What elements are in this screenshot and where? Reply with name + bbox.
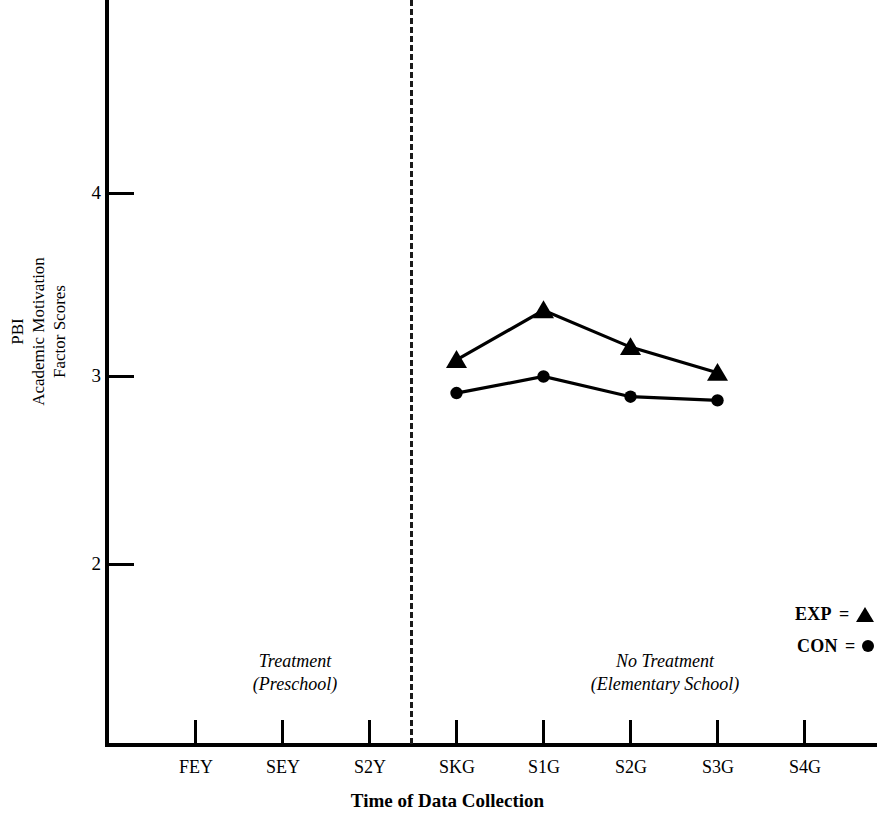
no-treatment-phase-line-1: No Treatment — [540, 650, 790, 673]
x-tick-mark-sey — [281, 720, 284, 744]
y-tick-label-3: 3 — [75, 366, 101, 385]
x-tick-label-s3g: S3G — [683, 757, 753, 777]
y-tick-mark-4 — [109, 192, 134, 195]
circle-marker-icon — [862, 640, 874, 652]
data-point-con-S2G — [624, 391, 636, 403]
legend-item-exp: EXP = — [795, 598, 874, 630]
legend-equals-exp: = — [839, 598, 849, 630]
treatment-phase-line-1: Treatment — [180, 650, 410, 673]
y-tick-label-2: 2 — [75, 554, 101, 573]
data-point-con-S3G — [711, 394, 723, 406]
treatment-phase-line-2: (Preschool) — [180, 673, 410, 696]
y-axis-title-line-1: PBI — [7, 212, 28, 452]
legend-item-con: CON = — [795, 630, 874, 662]
legend-label-exp: EXP — [795, 598, 832, 630]
x-axis-title: Time of Data Collection — [0, 790, 895, 812]
y-axis-title: PBI Academic Motivation Factor Scores — [7, 212, 70, 452]
chart-figure: 4 3 2 FEY SEY S2Y SKG S1G S2G S3G S4G PB… — [0, 0, 895, 817]
y-axis-title-line-3: Factor Scores — [49, 212, 70, 452]
x-tick-mark-skg — [455, 720, 458, 744]
x-tick-mark-s1g — [542, 720, 545, 744]
x-tick-mark-s3g — [716, 720, 719, 744]
data-point-exp-SKG — [446, 350, 467, 368]
legend-equals-con: = — [845, 630, 855, 662]
legend: EXP = CON = — [795, 598, 874, 662]
x-tick-mark-s2y — [368, 720, 371, 744]
series-exp-markers — [446, 300, 728, 380]
legend-label-con: CON — [797, 630, 838, 662]
no-treatment-phase-annotation: No Treatment (Elementary School) — [540, 650, 790, 696]
x-tick-label-sey: SEY — [248, 757, 318, 777]
x-tick-label-fey: FEY — [161, 757, 231, 777]
y-axis-title-line-2: Academic Motivation — [28, 212, 49, 452]
data-point-con-S1G — [537, 370, 549, 382]
x-tick-label-s4g: S4G — [770, 757, 840, 777]
x-tick-mark-s4g — [803, 720, 806, 744]
data-point-exp-S1G — [533, 300, 554, 318]
x-tick-label-skg: SKG — [422, 757, 492, 777]
triangle-marker-icon — [856, 607, 874, 622]
data-point-exp-S2G — [620, 337, 641, 355]
series-exp — [446, 300, 728, 380]
y-tick-mark-3 — [109, 375, 134, 378]
x-tick-mark-s2g — [629, 720, 632, 744]
treatment-phase-annotation: Treatment (Preschool) — [180, 650, 410, 696]
x-tick-label-s2g: S2G — [596, 757, 666, 777]
data-point-exp-S3G — [707, 363, 728, 381]
series-exp-line — [457, 310, 718, 373]
series-con-markers — [450, 370, 723, 406]
series-con-line — [457, 377, 718, 401]
x-tick-label-s1g: S1G — [509, 757, 579, 777]
x-tick-mark-fey — [194, 720, 197, 744]
series-con — [450, 370, 723, 406]
x-axis-line — [105, 743, 877, 747]
x-tick-label-s2y: S2Y — [335, 757, 405, 777]
phase-divider-dashed-line — [410, 0, 413, 744]
y-tick-mark-2 — [109, 563, 134, 566]
no-treatment-phase-line-2: (Elementary School) — [540, 673, 790, 696]
data-point-con-SKG — [450, 387, 462, 399]
y-axis-line — [105, 0, 109, 747]
y-tick-label-4: 4 — [75, 183, 101, 202]
